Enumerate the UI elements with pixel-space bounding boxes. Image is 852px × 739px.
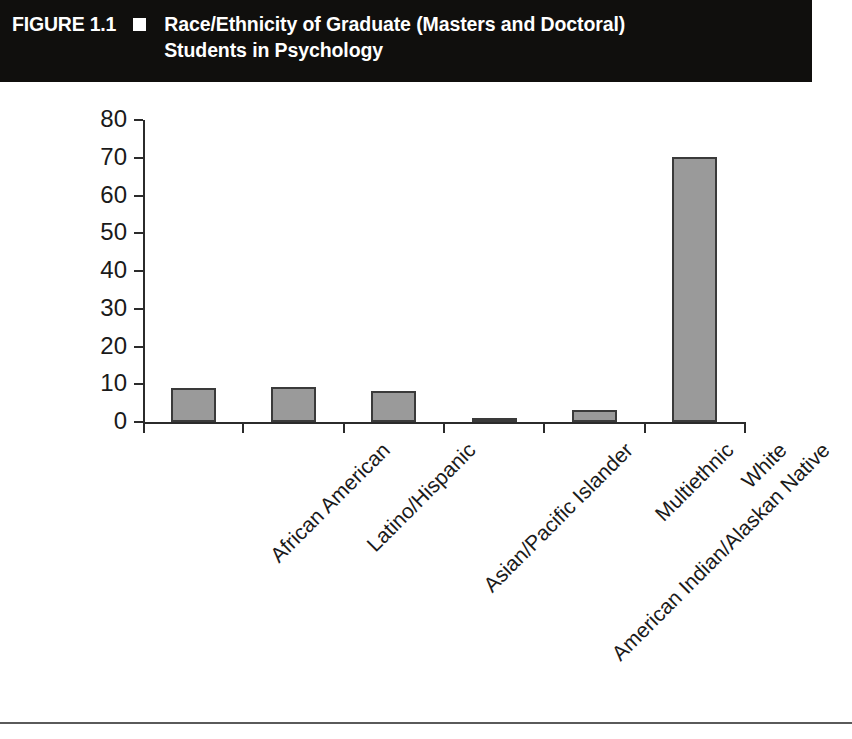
plot-area: 01020304050607080 — [143, 120, 745, 422]
x-axis-label: Asian/Pacific Islander — [479, 438, 638, 597]
figure-title-line-2: Students in Psychology — [164, 37, 625, 63]
x-axis-label: Multiethnic — [650, 438, 738, 526]
bar — [572, 410, 617, 422]
bar — [271, 387, 316, 422]
x-tick-3 — [543, 422, 545, 433]
y-tick-label-70: 70 — [100, 144, 127, 170]
x-tick-2 — [443, 422, 445, 433]
y-tick-label-30: 30 — [100, 295, 127, 321]
x-axis-label: American Indian/Alaskan Native — [607, 438, 834, 665]
x-tick-4 — [644, 422, 646, 433]
figure-header: FIGURE 1.1 Race/Ethnicity of Graduate (M… — [0, 0, 812, 82]
y-tick-label-60: 60 — [100, 182, 127, 208]
figure-title-line-1: Race/Ethnicity of Graduate (Masters and … — [164, 11, 625, 37]
bar — [672, 157, 717, 422]
y-tick-60: 60 — [134, 195, 143, 197]
x-axis-label: White — [737, 438, 792, 493]
bar-chart: 01020304050607080 African AmericanLatino… — [0, 82, 852, 682]
x-tick-origin — [143, 422, 145, 433]
figure-title: Race/Ethnicity of Graduate (Masters and … — [164, 11, 625, 63]
y-tick-20: 20 — [134, 346, 143, 348]
x-axis-label: Latino/Hispanic — [362, 438, 481, 557]
y-tick-10: 10 — [134, 383, 143, 385]
y-tick-30: 30 — [134, 308, 143, 310]
figure-header-inner: FIGURE 1.1 Race/Ethnicity of Graduate (M… — [0, 0, 812, 63]
y-tick-label-10: 10 — [100, 370, 127, 396]
y-tick-50: 50 — [134, 232, 143, 234]
y-tick-label-0: 0 — [114, 408, 127, 434]
y-tick-label-50: 50 — [100, 219, 127, 245]
y-axis-line — [143, 120, 145, 422]
x-tick-1 — [343, 422, 345, 433]
figure-bottom-rule — [0, 722, 852, 724]
y-tick-label-20: 20 — [100, 333, 127, 359]
y-tick-label-40: 40 — [100, 257, 127, 283]
x-tick-5 — [744, 422, 746, 433]
figure-number-label: FIGURE 1.1 — [12, 11, 116, 37]
square-bullet-icon — [133, 18, 146, 31]
y-tick-80: 80 — [134, 119, 143, 121]
bar — [472, 418, 517, 422]
x-tick-0 — [242, 422, 244, 433]
bar — [371, 391, 416, 422]
y-tick-0: 0 — [134, 421, 143, 423]
y-tick-40: 40 — [134, 270, 143, 272]
bar — [171, 388, 216, 422]
y-tick-label-80: 80 — [100, 106, 127, 132]
y-tick-70: 70 — [134, 157, 143, 159]
x-axis-label: African American — [266, 438, 395, 567]
